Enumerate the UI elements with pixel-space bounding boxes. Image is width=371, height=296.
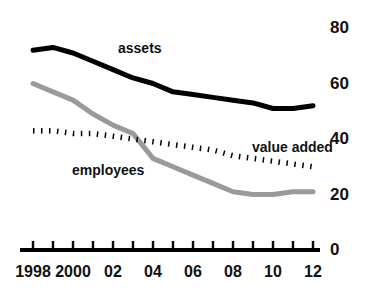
x-axis — [20, 241, 320, 250]
y-axis-tick-label: 60 — [330, 75, 349, 92]
y-axis-tick-label: 0 — [330, 241, 339, 258]
y-axis-tick-label: 80 — [330, 19, 349, 36]
series-label-value-added: value added — [252, 140, 333, 154]
series-label-employees: employees — [72, 163, 144, 177]
x-axis-ticks — [33, 241, 313, 249]
x-axis-tick-label: 12 — [290, 264, 336, 280]
y-axis-tick-label: 20 — [330, 186, 349, 203]
chart-container: 806040200 19982000020406081012 assets em… — [0, 0, 371, 296]
series-label-assets: assets — [118, 41, 162, 55]
